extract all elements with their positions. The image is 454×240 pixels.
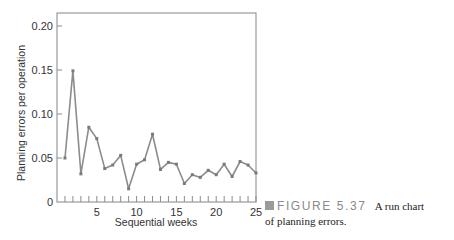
data-point (247, 164, 250, 167)
caption-text-continued: of planning errors. (265, 215, 454, 227)
data-point (87, 126, 90, 129)
data-point (215, 173, 218, 176)
x-axis: 510152025 (65, 196, 262, 218)
data-point (71, 69, 74, 72)
y-tick-label: 0.05 (32, 152, 53, 164)
y-axis-label: Planning errors per operation (15, 45, 27, 181)
x-tick-label: 5 (94, 206, 100, 218)
data-point (95, 137, 98, 140)
data-point (103, 167, 106, 170)
data-point (127, 187, 130, 190)
data-point (151, 133, 154, 136)
data-point (159, 168, 162, 171)
y-tick-label: 0.20 (32, 20, 53, 32)
caption-text: A run chart (375, 200, 424, 212)
plot-border (57, 13, 256, 202)
y-tick-label: 0 (47, 196, 53, 208)
data-point (223, 163, 226, 166)
data-point (111, 164, 114, 167)
data-point (63, 157, 66, 160)
data-point (167, 161, 170, 164)
y-tick-label: 0.10 (32, 108, 53, 120)
data-point (239, 160, 242, 163)
figure-caption: FIGURE 5.37 A run chart of planning erro… (265, 199, 454, 227)
x-axis-label: Sequential weeks (115, 216, 197, 228)
data-point (183, 182, 186, 185)
plot-frame (57, 13, 256, 202)
data-point (207, 169, 210, 172)
data-point (135, 163, 138, 166)
x-tick-label: 20 (210, 206, 222, 218)
data-line (65, 71, 256, 189)
data-point (199, 176, 202, 179)
figure-label: FIGURE 5.37 (277, 199, 367, 213)
data-point (191, 173, 194, 176)
data-point (119, 154, 122, 157)
caption-square-icon (265, 201, 274, 210)
data-point (79, 172, 82, 175)
data-point (175, 163, 178, 166)
y-tick-label: 0.15 (32, 64, 53, 76)
data-point (143, 158, 146, 161)
data-point (255, 171, 258, 174)
data-point (231, 175, 234, 178)
x-tick-label: 25 (250, 206, 262, 218)
